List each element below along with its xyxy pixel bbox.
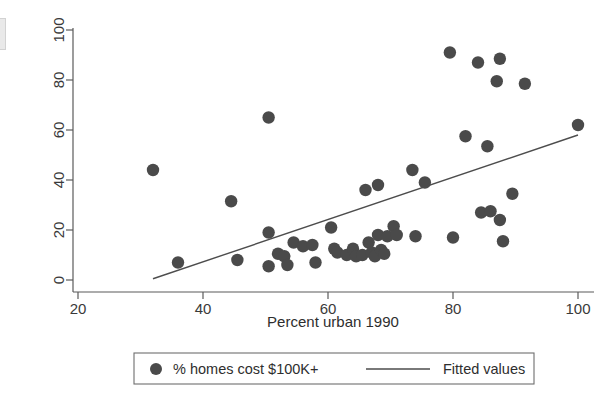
scatter-point (494, 214, 506, 226)
scatter-point (481, 140, 493, 152)
scatter-point (494, 53, 506, 65)
scatter-point (444, 46, 456, 58)
scatter-point (309, 256, 321, 268)
y-tick-label: 60 (50, 122, 67, 139)
y-tick-label: 80 (50, 72, 67, 89)
y-axis-tick-labels: 020406080100 (50, 17, 67, 284)
x-tick-label: 20 (70, 300, 87, 317)
x-tick-label: 40 (195, 300, 212, 317)
page-edge-artifact (0, 18, 6, 50)
x-tick-label: 80 (445, 300, 462, 317)
legend-line-label: Fitted values (443, 361, 525, 377)
scatter-point (391, 229, 403, 241)
scatter-point (262, 111, 274, 123)
scatter-point (409, 230, 421, 242)
x-tick-label: 100 (565, 300, 590, 317)
scatter-point (572, 119, 584, 131)
y-tick-label: 0 (50, 276, 67, 284)
scatter-point (372, 179, 384, 191)
y-tick-label: 20 (50, 222, 67, 239)
y-tick-label: 40 (50, 172, 67, 189)
scatter-point (262, 260, 274, 272)
scatter-point (147, 164, 159, 176)
scatter-plot-figure: 020406080100 20406080100 Percent urban 1… (0, 0, 608, 397)
scatter-point (378, 248, 390, 260)
scatter-point (497, 235, 509, 247)
scatter-point (406, 164, 418, 176)
y-tick-label: 100 (50, 17, 67, 42)
scatter-point (306, 239, 318, 251)
scatter-point (172, 256, 184, 268)
scatter-point (325, 221, 337, 233)
scatter-points (147, 46, 584, 272)
chart-legend: % homes cost $100K+ Fitted values (134, 353, 534, 384)
scatter-point (472, 56, 484, 68)
scatter-point (262, 226, 274, 238)
scatter-point (519, 78, 531, 90)
scatter-point (491, 75, 503, 87)
scatter-point (447, 231, 459, 243)
scatter-point (419, 176, 431, 188)
scatter-point (225, 195, 237, 207)
scatter-point (459, 130, 471, 142)
scatter-point (281, 259, 293, 271)
scatter-point (484, 205, 496, 217)
legend-marker-label: % homes cost $100K+ (173, 361, 319, 377)
scatter-point (231, 254, 243, 266)
legend-marker-icon (150, 363, 162, 375)
chart-canvas: 020406080100 20406080100 Percent urban 1… (0, 0, 608, 397)
x-axis-ticks (78, 292, 578, 299)
x-axis-title: Percent urban 1990 (267, 313, 399, 330)
scatter-point (506, 188, 518, 200)
scatter-point (359, 184, 371, 196)
y-axis-ticks (66, 30, 73, 280)
